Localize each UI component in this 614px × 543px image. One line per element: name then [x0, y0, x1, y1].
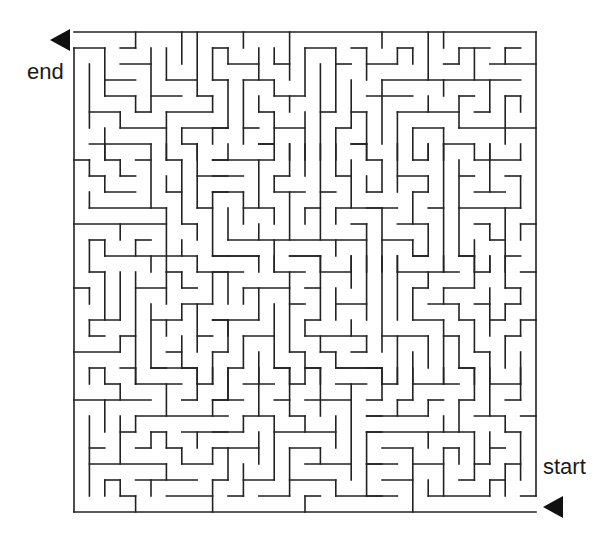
start-arrow-icon: [543, 496, 563, 518]
maze-grid: [0, 0, 614, 543]
maze-walls: [74, 32, 536, 512]
end-label: end: [27, 61, 64, 83]
start-label: start: [543, 456, 586, 478]
end-arrow-icon: [50, 29, 70, 51]
